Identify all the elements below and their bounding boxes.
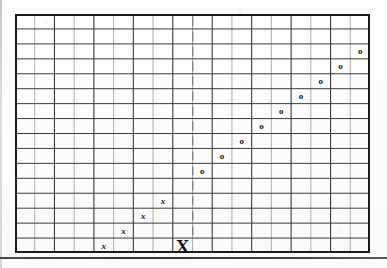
dashed-axis-segment [192, 166, 193, 175]
data-point-x: x [161, 196, 166, 205]
dashed-axis-segment [192, 62, 193, 71]
dashed-axis-segment [192, 196, 193, 205]
scan-edge-left-artifact [0, 0, 2, 268]
data-point-o: o [259, 122, 264, 131]
scan-edge-bottom-artifact [0, 257, 387, 259]
data-point-x: x [102, 241, 107, 250]
dashed-axis-segment [192, 106, 193, 115]
data-point-o: o [200, 166, 205, 175]
data-point-o: o [338, 62, 343, 71]
dashed-axis-segment [192, 151, 193, 160]
data-point-o: o [220, 151, 225, 160]
dashed-axis-segment [192, 181, 193, 190]
dashed-axis-segment [192, 17, 193, 26]
data-point-o: o [279, 107, 284, 116]
data-point-x: x [121, 226, 126, 235]
dashed-axis-segment [192, 211, 193, 220]
data-point-o: o [299, 92, 304, 101]
dashed-axis-segment [192, 77, 193, 86]
data-point-o: o [358, 47, 363, 56]
origin-marker-big-x: X [176, 236, 190, 255]
data-point-x: x [141, 211, 146, 220]
dashed-axis-segment [192, 47, 193, 56]
dashed-axis-segment [192, 32, 193, 41]
data-point-o: o [318, 77, 323, 86]
dashed-axis-segment [192, 136, 193, 145]
dashed-axis-segment [192, 121, 193, 130]
grid-area: oooooooooxxxxX [15, 14, 370, 253]
dashed-axis-segment [192, 92, 193, 101]
data-point-o: o [240, 136, 245, 145]
dashed-axis-segment [192, 226, 193, 235]
